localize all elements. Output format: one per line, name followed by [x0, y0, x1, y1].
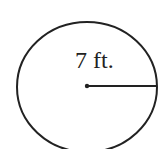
- circle-diagram: 7 ft.: [0, 0, 165, 149]
- radius-label: 7 ft.: [75, 47, 114, 73]
